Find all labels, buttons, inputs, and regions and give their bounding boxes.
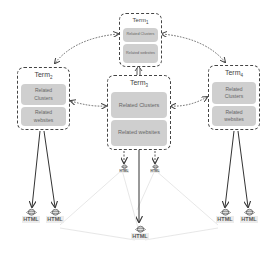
html-page-small-1: HTML — [119, 164, 129, 173]
html-page-small-2: HTML — [150, 164, 160, 173]
term4-box: Term4 Related Clusters Related websites — [208, 65, 260, 130]
globe-icon — [26, 208, 37, 216]
html-page-3: HTML — [131, 225, 149, 240]
globe-icon — [220, 208, 231, 216]
term2-box: Term2 Related Clusters Related websites — [17, 67, 70, 130]
term1-box: Term1 Related Clusters Related websites — [119, 13, 162, 67]
html-label: HTML — [119, 169, 130, 173]
term4-title: Term4 — [225, 68, 243, 80]
term2-related-clusters: Related Clusters — [21, 84, 66, 105]
term3-box: Term3 Related Clusters Related websites — [107, 75, 171, 150]
term4-related-websites: Related websites — [212, 106, 256, 126]
term1-related-websites: Related websites — [123, 44, 158, 63]
html-label: HTML — [131, 233, 148, 240]
html-page-5: HTML — [240, 208, 258, 223]
term3-title: Term3 — [130, 78, 148, 90]
html-label: HTML — [216, 216, 233, 223]
term1-related-clusters: Related Clusters — [123, 28, 158, 42]
html-label: HTML — [22, 216, 39, 223]
globe-icon — [244, 208, 255, 216]
term2-title: Term2 — [34, 70, 52, 82]
globe-icon — [50, 208, 61, 216]
term1-title: Term1 — [133, 16, 149, 27]
html-page-1: HTML — [22, 208, 40, 223]
term3-related-clusters: Related Clusters — [111, 92, 167, 118]
term4-related-clusters: Related Clusters — [212, 82, 256, 104]
html-page-4: HTML — [216, 208, 234, 223]
html-label: HTML — [240, 216, 257, 223]
html-label: HTML — [150, 169, 161, 173]
term2-related-websites: Related websites — [21, 107, 66, 126]
html-label: HTML — [46, 216, 63, 223]
term3-related-websites: Related websites — [111, 120, 167, 146]
globe-icon — [135, 225, 146, 233]
html-page-2: HTML — [46, 208, 64, 223]
